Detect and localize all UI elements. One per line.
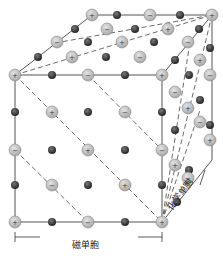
svg-text:+: +: [12, 72, 18, 80]
svg-text:−: −: [207, 72, 213, 80]
cubic-lattice-diagram: +−+ +−+ −− +−+ −+ +−+ −+ −+ +− −+ −− +− …: [0, 0, 223, 262]
svg-text:+: +: [185, 105, 191, 113]
svg-text:+: +: [165, 26, 171, 34]
svg-text:+: +: [197, 57, 203, 65]
svg-text:−: −: [12, 147, 18, 155]
svg-text:+: +: [49, 109, 55, 117]
svg-text:+: +: [85, 147, 91, 155]
svg-text:−: −: [172, 89, 178, 97]
svg-text:+: +: [159, 72, 165, 80]
svg-text:−: −: [185, 39, 191, 47]
svg-text:−: −: [85, 219, 91, 227]
svg-text:−: −: [49, 182, 55, 190]
svg-text:+: +: [69, 54, 75, 62]
svg-text:−: −: [159, 147, 165, 155]
svg-text:−: −: [54, 39, 60, 47]
svg-text:+: +: [122, 182, 128, 190]
svg-text:−: −: [85, 72, 91, 80]
svg-text:−: −: [197, 119, 203, 127]
svg-text:+: +: [159, 219, 165, 227]
svg-text:−: −: [147, 12, 153, 20]
svg-text:+: +: [172, 162, 178, 170]
svg-text:+: +: [12, 219, 18, 227]
svg-text:+: +: [209, 12, 215, 20]
svg-text:−: −: [137, 54, 143, 62]
svg-text:+: +: [207, 137, 213, 145]
magnetic-cell-label: 磁单胞: [72, 238, 99, 251]
svg-text:−: −: [104, 26, 110, 34]
svg-text:+: +: [89, 12, 95, 20]
svg-text:+: +: [119, 39, 125, 47]
svg-text:−: −: [122, 109, 128, 117]
